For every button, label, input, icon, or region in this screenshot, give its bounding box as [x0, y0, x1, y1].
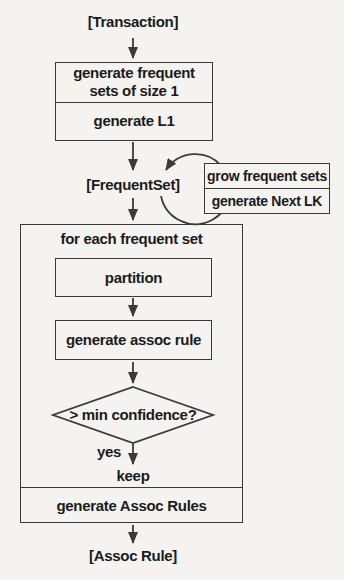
step1-line1: generate frequent — [73, 64, 195, 82]
assoc-rule-label: [Assoc Rule] — [33, 548, 233, 564]
generate-next-lk-label: generate Next LK — [212, 192, 322, 210]
generate-assoc-rule-row: generate assoc rule — [56, 321, 211, 359]
step1-row-generate-l1: generate L1 — [56, 103, 212, 140]
decision-label: > min confidence? — [53, 407, 213, 423]
step1-line2: sets of size 1 — [73, 82, 195, 100]
generate-assoc-rule-box: generate assoc rule — [55, 320, 212, 360]
partition-label: partition — [105, 269, 162, 287]
step1-row-generate-frequent: generate frequent sets of size 1 — [56, 63, 212, 103]
loop-row-grow: grow frequent sets — [205, 164, 329, 189]
transaction-label: [Transaction] — [33, 14, 233, 30]
partition-row: partition — [56, 259, 211, 296]
partition-box: partition — [55, 258, 212, 297]
loop-box: grow frequent sets generate Next LK — [204, 163, 330, 214]
generate-assoc-rules-label: generate Assoc Rules — [56, 497, 206, 514]
frequentset-label: [FrequentSet] — [33, 177, 233, 193]
loop-row-generate-next: generate Next LK — [205, 189, 329, 213]
generate-l1-label: generate L1 — [94, 112, 175, 130]
generate-assoc-rules-footer: generate Assoc Rules — [21, 487, 242, 522]
grow-frequent-sets-label: grow frequent sets — [207, 167, 327, 185]
foreach-header: for each frequent set — [20, 231, 243, 247]
step1-box: generate frequent sets of size 1 generat… — [55, 62, 213, 141]
generate-assoc-rule-label: generate assoc rule — [66, 331, 201, 349]
flowchart-page: [Transaction] generate frequent sets of … — [0, 0, 344, 580]
keep-label: keep — [53, 468, 213, 484]
yes-label: yes — [89, 444, 129, 460]
